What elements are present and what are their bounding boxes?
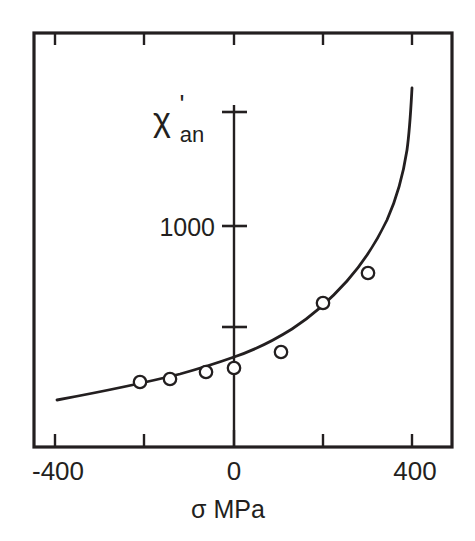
data-marker bbox=[134, 376, 146, 388]
y-tick-label-1000: 1000 bbox=[159, 213, 215, 241]
data-marker bbox=[317, 297, 329, 309]
data-marker bbox=[164, 373, 176, 385]
chart-plot-area: χ ' an 1000 -400 0 400 σ MPa bbox=[0, 0, 475, 541]
data-marker bbox=[228, 362, 240, 374]
y-axis-title-prime: ' bbox=[180, 89, 185, 119]
x-tick-label-0: 0 bbox=[227, 456, 241, 486]
frame-border bbox=[34, 33, 452, 447]
y-axis-title-subscript: an bbox=[180, 122, 204, 147]
top-axis-ticks bbox=[55, 33, 412, 45]
chart-figure: χ ' an 1000 -400 0 400 σ MPa bbox=[0, 0, 475, 541]
plot-frame bbox=[34, 33, 452, 447]
x-tick-label-400: 400 bbox=[393, 456, 436, 486]
y-axis bbox=[222, 105, 247, 447]
y-axis-title-chi: χ bbox=[153, 100, 171, 138]
data-markers bbox=[134, 267, 374, 388]
data-marker bbox=[275, 346, 287, 358]
x-axis-title: σ MPa bbox=[191, 495, 265, 523]
data-marker bbox=[362, 267, 374, 279]
y-axis-title: χ ' an bbox=[153, 89, 204, 147]
x-tick-label--400: -400 bbox=[32, 456, 84, 486]
data-marker bbox=[200, 366, 212, 378]
